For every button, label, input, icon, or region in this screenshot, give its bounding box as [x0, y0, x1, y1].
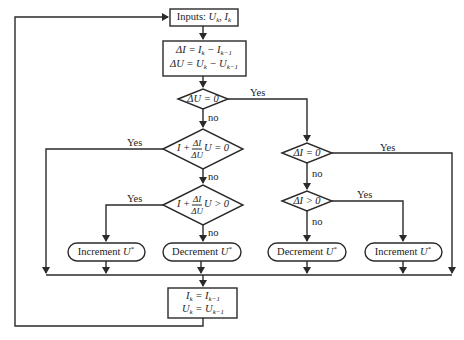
edge-label-cond-pos-yes: Yes [127, 194, 142, 205]
increment-right-label: Increment U* [375, 246, 431, 258]
delta-i-equation: ΔI = Ik − Ik−1 [176, 45, 232, 57]
flowchart-canvas [0, 0, 464, 340]
edge-label-cond-pos-no: no [208, 228, 219, 239]
du-zero-label: ΔU = 0 [187, 94, 218, 105]
cond-zero-label: I +ΔIΔUU = 0 [177, 139, 229, 160]
edge-label-cond-zero-yes: Yes [127, 138, 142, 149]
di-pos-label: ΔI > 0 [293, 196, 320, 207]
decrement-right-label: Decrement U* [277, 246, 337, 258]
decrement-left-label: Decrement U* [172, 246, 232, 258]
edge-label-du-zero-yes: Yes [250, 88, 265, 99]
di-zero-label: ΔI = 0 [293, 148, 320, 159]
edge-label-di-zero-no: no [312, 169, 323, 180]
edge-label-du-zero-no: no [208, 113, 219, 124]
increment-left-label: Increment U* [78, 246, 134, 258]
edge-label-di-zero-yes: Yes [380, 143, 395, 154]
cond-pos-label: I +ΔIΔUU > 0 [177, 195, 229, 216]
update-i-equation: Ik = Ik−1 [186, 291, 220, 303]
arrow-cond-pos-yes [106, 205, 163, 241]
inputs-label: Inputs: Uk, Ik [177, 12, 231, 24]
edge-label-di-pos-yes: Yes [357, 190, 372, 201]
edge-label-cond-zero-no: no [208, 172, 219, 183]
edge-label-di-pos-no: no [312, 217, 323, 228]
arrow-di-pos-yes [332, 201, 403, 241]
arrow-du-zero-yes [228, 99, 307, 141]
update-u-equation: Uk = Uk−1 [182, 304, 224, 316]
delta-u-equation: ΔU = Uk − Uk−1 [170, 59, 238, 71]
